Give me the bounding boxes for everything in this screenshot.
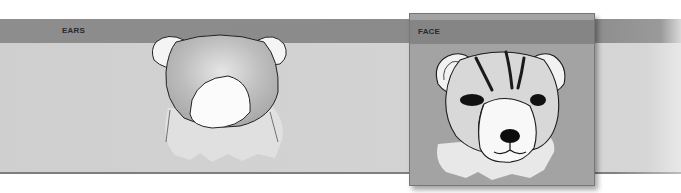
face-sketch-image <box>426 44 578 182</box>
ears-sketch-image <box>140 30 300 165</box>
face-panel: FACE <box>409 13 595 186</box>
face-label: FACE <box>418 27 440 36</box>
ears-label: EARS <box>62 26 85 35</box>
